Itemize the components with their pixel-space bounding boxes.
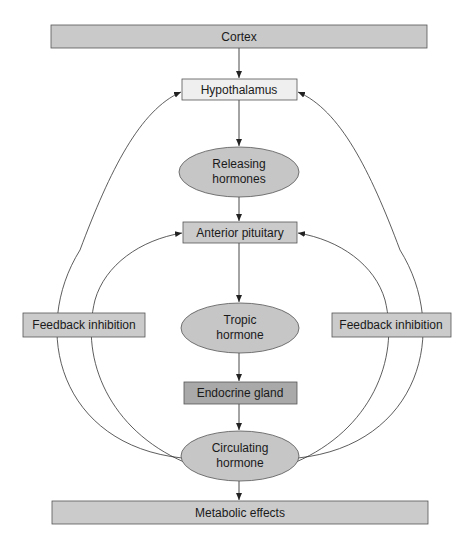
metabolic-effects-box: Metabolic effects	[52, 501, 428, 524]
cortex-label: Cortex	[221, 30, 256, 44]
feedback-inhibition-left-label: Feedback inhibition	[32, 318, 135, 332]
metabolic-effects-label: Metabolic effects	[195, 506, 285, 520]
feedback-curve-left-inner	[91, 233, 184, 462]
cortex-box: Cortex	[51, 25, 427, 48]
anterior-pituitary-label: Anterior pituitary	[196, 226, 283, 240]
tropic-hormone-ellipse: Tropic hormone	[181, 303, 299, 353]
tropic-hormone-label-line1: Tropic	[224, 313, 257, 327]
hormone-feedback-diagram: Cortex Hypothalamus Releasing hormones A…	[0, 0, 472, 546]
endocrine-gland-label: Endocrine gland	[197, 386, 284, 400]
feedback-curve-right-inner	[296, 233, 389, 462]
feedback-inhibition-left-box: Feedback inhibition	[23, 313, 145, 337]
feedback-curve-left-outer	[57, 92, 182, 458]
circulating-hormone-label-line1: Circulating	[212, 441, 269, 455]
feedback-inhibition-right-box: Feedback inhibition	[332, 313, 451, 337]
anterior-pituitary-box: Anterior pituitary	[183, 222, 297, 243]
feedback-curve-right-outer	[298, 92, 423, 458]
circulating-hormone-label-line2: hormone	[216, 456, 264, 470]
hypothalamus-box: Hypothalamus	[182, 79, 297, 100]
hypothalamus-label: Hypothalamus	[201, 83, 278, 97]
releasing-hormones-label-line2: hormones	[212, 172, 265, 186]
circulating-hormone-ellipse: Circulating hormone	[181, 431, 299, 481]
tropic-hormone-label-line2: hormone	[216, 328, 264, 342]
feedback-inhibition-right-label: Feedback inhibition	[339, 318, 442, 332]
endocrine-gland-box: Endocrine gland	[184, 382, 297, 404]
releasing-hormones-ellipse: Releasing hormones	[179, 147, 299, 197]
releasing-hormones-label-line1: Releasing	[212, 157, 265, 171]
